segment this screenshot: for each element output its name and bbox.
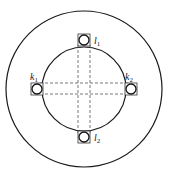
inner-circle <box>42 47 126 131</box>
sensor-k1 <box>31 83 43 95</box>
label-k1: k1 <box>30 71 38 84</box>
diagram-canvas: l1 k1 k2 l2 <box>0 0 170 182</box>
sensor-k2 <box>125 83 137 95</box>
label-l2: l2 <box>94 132 101 145</box>
label-k2: k2 <box>125 71 133 84</box>
sensor-l2 <box>78 131 90 143</box>
dashed-guides <box>40 45 128 133</box>
sensor-l1 <box>78 34 90 46</box>
label-l1: l1 <box>94 35 101 48</box>
